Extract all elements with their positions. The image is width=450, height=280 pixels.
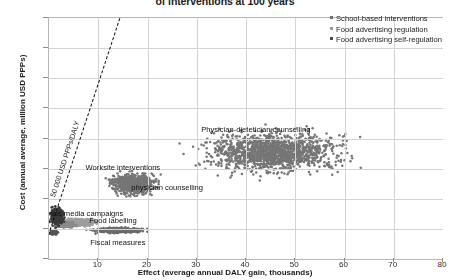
legend-marker-icon (330, 27, 333, 30)
gridline-vertical (246, 18, 247, 259)
legend-item: Food advertising self-regulation (330, 35, 442, 46)
legend-marker-icon (330, 16, 333, 19)
x-axis-tick-mark (245, 258, 246, 262)
x-axis-tick-mark (196, 258, 197, 262)
y-axis-tick-mark (43, 258, 48, 259)
x-axis-tick-mark (393, 258, 394, 262)
chart-legend: School-based interventionsFood advertisi… (330, 14, 442, 46)
chart-title: of interventions at 100 years (0, 0, 450, 7)
legend-item-label: Food advertising regulation (336, 25, 428, 36)
x-axis-tick-mark (344, 258, 345, 262)
y-axis-tick-mark (43, 77, 48, 78)
y-axis-tick-mark (43, 138, 48, 139)
y-axis-tick-mark (43, 107, 48, 108)
cluster-annotation: Physician-dietetician counselling (201, 125, 310, 134)
gridline-vertical (295, 18, 296, 259)
y-axis-label: Cost (annual average, million USD PPPs) (18, 43, 27, 223)
plot-area: 50 000 USD PPPs/DALY Physician-dietetici… (48, 17, 443, 260)
cluster-annotation: physician counselling (131, 182, 203, 191)
x-axis-label: Effect (average annual DALY gain, thousa… (0, 268, 450, 277)
y-axis-tick-mark (43, 47, 48, 48)
y-axis-tick-mark (43, 198, 48, 199)
gridline-vertical (148, 18, 149, 259)
legend-item: School-based interventions (330, 14, 442, 25)
legend-item-label: Food advertising self-regulation (336, 35, 442, 46)
x-axis-tick-mark (442, 258, 443, 262)
y-axis-tick-mark (43, 17, 48, 18)
cluster-annotation: Food labelling (89, 216, 136, 225)
x-axis-tick-mark (97, 258, 98, 262)
legend-item: Food advertising regulation (330, 25, 442, 36)
x-axis-tick-mark (294, 258, 295, 262)
y-axis-tick-mark (43, 228, 48, 229)
cluster-annotation: Worksite interventions (86, 163, 161, 172)
cluster-annotation: Fiscal measures (90, 238, 145, 247)
gridline-vertical (197, 18, 198, 259)
legend-marker-icon (330, 37, 333, 40)
legend-item-label: School-based interventions (336, 14, 428, 25)
y-axis-tick-mark (43, 168, 48, 169)
cost-effectiveness-scatter-chart: of interventions at 100 years 50 000 USD… (0, 0, 450, 280)
x-axis-tick-mark (147, 258, 148, 262)
gridline-vertical (345, 18, 346, 259)
gridline-vertical (394, 18, 395, 259)
